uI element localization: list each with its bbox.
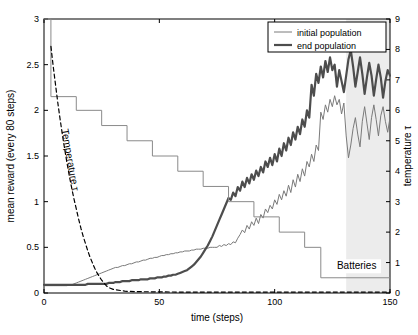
x-tick-label: 50 bbox=[154, 297, 164, 307]
y2-tick-label: 0 bbox=[395, 288, 400, 298]
x-tick-label: 100 bbox=[267, 297, 282, 307]
legend-label-0: initial population bbox=[297, 28, 362, 38]
legend-label-1: end population bbox=[297, 41, 356, 51]
series-temperature bbox=[51, 46, 390, 292]
y2-tick-label: 8 bbox=[395, 44, 400, 54]
y-tick-label: 0.5 bbox=[26, 242, 39, 252]
y2-tick-label: 4 bbox=[395, 166, 400, 176]
y2-tick-label: 1 bbox=[395, 258, 400, 268]
series-batteries bbox=[44, 19, 390, 278]
annotation-batteries: Batteries bbox=[337, 260, 376, 271]
y-tick-label: 1 bbox=[34, 197, 39, 207]
x-tick-label: 150 bbox=[382, 297, 397, 307]
y-tick-label: 0 bbox=[34, 288, 39, 298]
y2-tick-label: 5 bbox=[395, 136, 400, 146]
figure-panel: 05010015000.511.522.530123456789time (st… bbox=[0, 0, 418, 335]
y2-tick-label: 9 bbox=[395, 14, 400, 24]
y2-tick-label: 7 bbox=[395, 75, 400, 85]
chart-svg: 05010015000.511.522.530123456789time (st… bbox=[0, 0, 418, 335]
y-tick-label: 3 bbox=[34, 14, 39, 24]
series-end-population bbox=[44, 50, 390, 285]
series-initial-population bbox=[44, 96, 390, 286]
x-tick-label: 0 bbox=[41, 297, 46, 307]
y2-tick-label: 2 bbox=[395, 227, 400, 237]
y2-tick-label: 3 bbox=[395, 197, 400, 207]
annotation-temperature: Temperature τ bbox=[60, 128, 82, 192]
y2-tick-label: 6 bbox=[395, 105, 400, 115]
y-tick-label: 2 bbox=[34, 105, 39, 115]
y-tick-label: 2.5 bbox=[26, 60, 39, 70]
y-tick-label: 1.5 bbox=[26, 151, 39, 161]
x-axis-label: time (steps) bbox=[191, 312, 243, 323]
plot-frame bbox=[44, 19, 390, 293]
y-axis-label: mean reward (every 80 steps) bbox=[5, 90, 16, 223]
y2-axis-label: temperature τ bbox=[402, 126, 413, 187]
